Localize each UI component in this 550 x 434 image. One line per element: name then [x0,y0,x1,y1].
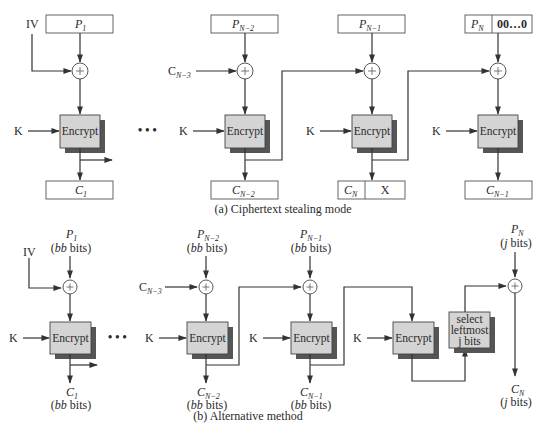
svg-text:Encrypt: Encrypt [227,125,264,138]
caption-b: (b) Alternative method [193,409,302,423]
encrypt-block: Encrypt [352,115,397,153]
svg-text:CN−3: CN−3 [139,280,162,296]
key-label: K [9,331,18,345]
xor-icon [237,63,253,79]
part-a-ciphertext-stealing: IV P1 K Encrypt C1 • • • [14,15,532,216]
xor-icon [63,280,77,294]
part-b-alternative-method: P1 (bb bits) IV K Encrypt C1 (bb bits) •… [9,222,532,423]
encrypt-block: Encrypt [187,322,233,359]
xor-icon [72,63,88,79]
key-label: K [145,331,154,345]
part-b-final: PN (j bits) CN (j bits) [500,222,532,409]
xor-icon [199,280,213,294]
key-label: K [306,124,315,138]
svg-text:Encrypt: Encrypt [293,332,330,345]
part-b-stage-1: P1 (bb bits) IV K Encrypt C1 (bb bits) [9,227,97,412]
part-b-stage-3: PN−1 (bb bits) K Encrypt CN−1 (bb bits) [249,227,412,412]
svg-text:Encrypt: Encrypt [62,125,99,138]
svg-text:(bb bits): (bb bits) [51,241,91,255]
cts-diagram: IV P1 K Encrypt C1 • • • [0,0,550,434]
xor-icon [508,279,522,293]
xor-icon [364,63,380,79]
part-a-stage-3: PN−1 K Encrypt CN X [306,15,489,199]
key-label: K [353,331,362,345]
select-leftmost-block: select leftmost j bits [449,312,495,353]
encrypt-block: Encrypt [291,322,337,359]
part-b-stage-2: PN−2 (bb bits) CN−3 K Encrypt CN−2 (bb b… [139,227,301,412]
svg-text:X: X [381,183,390,197]
svg-text:(bb bits): (bb bits) [291,241,331,255]
svg-text:(bb bits): (bb bits) [51,398,91,412]
part-b-stage-4: K Encrypt select leftmost j bits [353,286,506,381]
encrypt-block: Encrypt [225,115,270,153]
iv-label: IV [23,245,36,259]
ellipsis: • • • [138,123,157,137]
cn-3-label: CN−3 [168,64,191,80]
encrypt-block: Encrypt [60,115,105,153]
svg-text:Encrypt: Encrypt [189,332,226,345]
svg-text:j bits: j bits [457,335,481,348]
encrypt-block: Encrypt [50,322,96,359]
key-label: K [14,124,23,138]
svg-text:Encrypt: Encrypt [395,332,432,345]
svg-text:00…0: 00…0 [497,17,527,31]
iv-label: IV [26,17,39,31]
key-label: K [432,124,441,138]
part-a-stage-4: PN 00…0 K Encrypt CN−1 [432,15,532,199]
caption-a: (a) Ciphertext stealing mode [215,202,352,216]
part-a-stage-1: IV P1 K Encrypt C1 [14,15,113,199]
svg-text:Encrypt: Encrypt [52,332,89,345]
encrypt-block: Encrypt [393,322,439,359]
svg-text:Encrypt: Encrypt [354,125,391,138]
key-label: K [179,124,188,138]
svg-text:(bb bits): (bb bits) [187,241,227,255]
encrypt-block: Encrypt [478,115,523,153]
svg-text:(j bits): (j bits) [500,395,532,409]
ellipsis: • • • [108,330,127,344]
xor-icon [490,63,506,79]
svg-text:Encrypt: Encrypt [480,125,517,138]
part-a-stage-2: PN−2 CN−3 K Encrypt CN−2 [168,15,363,199]
xor-icon [303,280,317,294]
key-label: K [249,331,258,345]
svg-text:(j bits): (j bits) [500,236,532,250]
